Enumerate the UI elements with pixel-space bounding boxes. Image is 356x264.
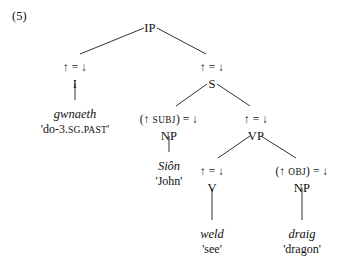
leaf-draig-gloss: 'dragon' [283, 243, 321, 255]
annot-s-part-0: ↑ = ↓ [200, 61, 224, 73]
annot-np-obj: (↑ OBJ) = ↓ [276, 166, 329, 178]
annot-np-subj: (↑ SUBJ) = ↓ [140, 114, 198, 126]
annot-vp-part-0: ↑ = ↓ [244, 113, 268, 125]
annot-np-subj-part-0: (↑ [140, 113, 153, 125]
tree-node-i: I [73, 78, 77, 91]
leaf-gwnaeth-gloss-part-0: 'do-3. [41, 122, 68, 136]
tree-node-vp: VP [248, 130, 264, 143]
leaf-sion-gloss: 'John' [156, 175, 183, 187]
annot-i-part-0: ↑ = ↓ [63, 61, 87, 73]
leaf-gwnaeth-word: gwnaeth [54, 108, 96, 121]
tree-node-s: S [208, 78, 215, 91]
leaf-gwnaeth-gloss: 'do-3.SG.PAST' [41, 123, 109, 135]
edge-ip-s [157, 28, 206, 54]
leaf-weld-gloss: 'see' [202, 243, 222, 255]
annot-np-subj-part-2: ) = ↓ [176, 113, 198, 125]
leaf-weld-gloss-part-0: 'see' [202, 242, 222, 256]
leaf-sion-gloss-part-0: 'John' [156, 174, 183, 188]
leaf-weld-word: weld [200, 228, 224, 241]
tree-node-v: V [207, 182, 216, 195]
edge-s-vp [217, 84, 250, 106]
edge-ip-i [80, 28, 144, 54]
annot-np-obj-part-1: OBJ [288, 167, 306, 177]
edge-vp-np [261, 136, 296, 158]
leaf-gwnaeth-gloss-part-3: PAST [84, 124, 107, 135]
annot-vp: ↑ = ↓ [244, 114, 268, 126]
leaf-draig-gloss-part-0: 'dragon' [283, 242, 321, 256]
edge-vp-v [218, 136, 250, 158]
tree-node-ip: IP [144, 22, 156, 35]
edge-s-np [176, 84, 207, 106]
annot-i: ↑ = ↓ [63, 62, 87, 74]
annot-np-obj-part-0: (↑ [276, 165, 289, 177]
annot-np-obj-part-2: ) = ↓ [306, 165, 328, 177]
leaf-gwnaeth-gloss-part-1: SG [68, 124, 81, 135]
tree-node-np-subj: NP [161, 130, 177, 143]
annot-s: ↑ = ↓ [200, 62, 224, 74]
tree-node-np-obj: NP [294, 182, 310, 195]
annot-v-part-0: ↑ = ↓ [200, 165, 224, 177]
leaf-draig-word: draig [288, 228, 315, 241]
leaf-sion-word: Siôn [158, 160, 180, 173]
syntax-tree-figure: (5) IPISNPVPVNP↑ = ↓↑ = ↓(↑ SUBJ) = ↓↑ =… [0, 0, 356, 264]
annot-np-subj-part-1: SUBJ [153, 115, 176, 125]
leaf-gwnaeth-gloss-part-4: ' [107, 122, 109, 136]
example-number: (5) [12, 10, 27, 23]
annot-v: ↑ = ↓ [200, 166, 224, 178]
